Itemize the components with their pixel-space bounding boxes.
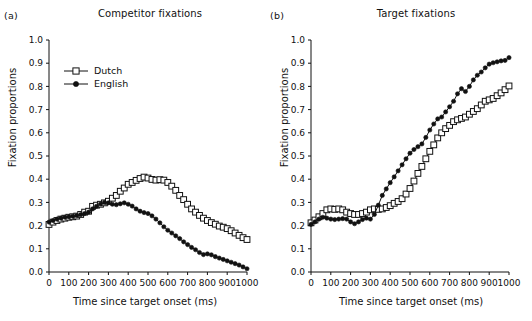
x-tick-label: 600 xyxy=(159,278,176,288)
legend: DutchEnglish xyxy=(64,65,128,89)
x-tick-label: 900 xyxy=(481,278,498,288)
y-tick-label: 0.6 xyxy=(29,128,44,138)
marker-filled-circle xyxy=(90,207,94,211)
marker-filled-circle xyxy=(345,217,349,221)
marker-filled-circle xyxy=(146,211,150,215)
marker-filled-circle xyxy=(205,252,209,256)
marker-filled-circle xyxy=(352,222,356,226)
panel-competitor-fixations: (a) Competitor fixations Fixation propor… xyxy=(0,0,266,321)
marker-filled-circle xyxy=(337,217,341,221)
marker-filled-circle xyxy=(325,216,329,220)
marker-filled-circle xyxy=(467,84,471,88)
y-tick-label: 0.7 xyxy=(291,105,305,115)
marker-filled-circle xyxy=(79,213,83,217)
y-tick-label: 0.1 xyxy=(291,244,305,254)
marker-filled-circle xyxy=(130,204,134,208)
x-tick-label: 500 xyxy=(401,278,418,288)
marker-filled-circle xyxy=(388,181,392,185)
marker-filled-circle xyxy=(471,78,475,82)
marker-filled-circle xyxy=(341,217,345,221)
marker-filled-circle xyxy=(368,217,372,221)
marker-filled-circle xyxy=(98,202,102,206)
marker-filled-circle xyxy=(75,214,79,218)
marker-filled-circle xyxy=(94,204,98,208)
marker-filled-circle xyxy=(503,58,507,62)
legend-label-dutch: Dutch xyxy=(94,65,122,76)
marker-filled-circle xyxy=(174,234,178,238)
x-tick-label: 500 xyxy=(139,278,156,288)
marker-filled-circle xyxy=(360,217,364,221)
marker-filled-circle xyxy=(209,253,213,257)
marker-open-square xyxy=(419,164,425,170)
marker-filled-circle xyxy=(309,222,313,226)
legend-label-english: English xyxy=(94,78,128,89)
y-tick-label: 0.8 xyxy=(291,82,306,92)
y-tick-label: 1.0 xyxy=(29,35,44,45)
y-tick-label: 0.0 xyxy=(29,267,44,277)
marker-filled-circle xyxy=(396,169,400,173)
marker-filled-circle xyxy=(178,236,182,240)
marker-filled-circle xyxy=(59,216,63,220)
y-tick-label: 0.3 xyxy=(291,198,305,208)
marker-filled-circle xyxy=(356,220,360,224)
marker-filled-circle xyxy=(321,215,325,219)
marker-filled-circle xyxy=(463,89,467,93)
marker-open-square xyxy=(431,142,437,148)
marker-filled-circle xyxy=(313,220,317,224)
marker-filled-circle xyxy=(428,128,432,132)
marker-filled-circle xyxy=(102,200,106,204)
marker-open-square xyxy=(423,156,429,162)
marker-filled-circle xyxy=(126,202,130,206)
x-tick-label: 600 xyxy=(421,278,438,288)
marker-filled-circle xyxy=(55,217,59,221)
marker-open-square xyxy=(403,191,409,197)
x-tick-label: 400 xyxy=(120,278,137,288)
y-tick-label: 0.9 xyxy=(29,58,44,68)
marker-filled-circle xyxy=(162,225,166,229)
marker-filled-circle xyxy=(166,228,170,232)
x-tick-label: 300 xyxy=(100,278,117,288)
y-tick-label: 0.2 xyxy=(29,221,43,231)
marker-filled-circle xyxy=(420,142,424,146)
marker-filled-circle xyxy=(444,110,448,114)
marker-filled-circle xyxy=(71,214,75,218)
y-tick-label: 0.4 xyxy=(291,174,306,184)
marker-filled-circle xyxy=(83,211,87,215)
y-tick-label: 0.6 xyxy=(291,128,306,138)
x-tick-label: 300 xyxy=(362,278,379,288)
marker-filled-circle xyxy=(150,214,154,218)
marker-filled-circle xyxy=(349,220,353,224)
marker-filled-circle xyxy=(193,248,197,252)
x-tick-label: 100 xyxy=(60,278,77,288)
marker-filled-circle xyxy=(455,92,459,96)
marker-filled-circle xyxy=(436,117,440,121)
legend-marker-open-square xyxy=(73,68,79,74)
series-line-english xyxy=(311,58,509,225)
marker-filled-circle xyxy=(122,201,126,205)
marker-filled-circle xyxy=(459,87,463,91)
marker-open-square xyxy=(415,171,421,177)
y-tick-label: 0.4 xyxy=(29,174,44,184)
y-tick-label: 0.9 xyxy=(291,58,306,68)
marker-filled-circle xyxy=(416,145,420,149)
y-tick-label: 0.7 xyxy=(29,105,43,115)
marker-filled-circle xyxy=(221,257,225,261)
x-tick-label: 1000 xyxy=(236,278,259,288)
x-tick-label: 200 xyxy=(342,278,359,288)
marker-filled-circle xyxy=(440,115,444,119)
marker-filled-circle xyxy=(483,66,487,70)
marker-filled-circle xyxy=(51,218,55,222)
x-tick-label: 800 xyxy=(461,278,478,288)
x-tick-label: 700 xyxy=(179,278,196,288)
marker-filled-circle xyxy=(376,203,380,207)
marker-filled-circle xyxy=(424,135,428,139)
marker-filled-circle xyxy=(233,262,237,266)
marker-filled-circle xyxy=(499,59,503,63)
marker-filled-circle xyxy=(479,70,483,74)
figure-container: (a) Competitor fixations Fixation propor… xyxy=(0,0,532,321)
marker-filled-circle xyxy=(229,260,233,264)
marker-filled-circle xyxy=(241,265,245,269)
marker-filled-circle xyxy=(487,62,491,66)
marker-filled-circle xyxy=(507,56,511,60)
x-tick-label: 100 xyxy=(322,278,339,288)
